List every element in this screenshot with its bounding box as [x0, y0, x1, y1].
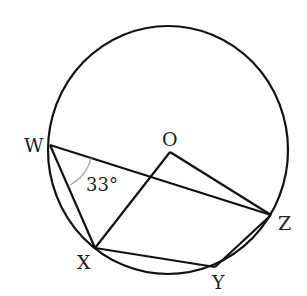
angle-label-w: 33° [86, 174, 118, 195]
label-x: X [77, 251, 91, 273]
segment-xo [95, 152, 170, 248]
circle [48, 26, 288, 274]
circle-diagram: W O Z X Y 33° [0, 0, 307, 296]
segment-oz [170, 152, 271, 215]
segment-yz [215, 215, 271, 267]
segment-wz [50, 145, 271, 215]
label-z: Z [278, 212, 291, 234]
label-y: Y [211, 271, 225, 293]
segment-xy [95, 248, 215, 267]
label-o: O [162, 128, 178, 150]
label-w: W [24, 134, 44, 156]
